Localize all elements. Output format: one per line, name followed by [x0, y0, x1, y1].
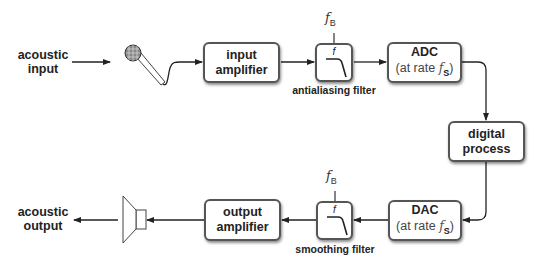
antialiasing-filter-block[interactable]: f [315, 43, 353, 82]
label-line: output [12, 219, 74, 233]
block-label: DAC [411, 203, 438, 218]
cutoff-frequency-label: fB [326, 168, 337, 186]
arrow-digital-to-dac [463, 162, 486, 220]
rate-prefix: (at rate [396, 219, 439, 233]
acoustic-input-label: acoustic input [12, 48, 74, 76]
block-label: process [463, 142, 511, 157]
block-label: digital [468, 127, 505, 142]
microphone-icon [125, 45, 165, 85]
arrow-mic-to-amp [163, 62, 202, 85]
block-label: ADC [411, 45, 438, 60]
speaker-icon [123, 196, 146, 243]
label-line: input [12, 62, 74, 76]
adc-block[interactable]: ADC (at rate fS) [387, 42, 462, 83]
input-amplifier-block[interactable]: input amplifier [203, 42, 280, 83]
output-amplifier-block[interactable]: output amplifier [204, 199, 281, 241]
lowpass-filter-icon [317, 45, 351, 80]
label-line: acoustic [12, 48, 74, 62]
acoustic-output-label: acoustic output [12, 205, 74, 233]
antialiasing-filter-caption: antialiasing filter [284, 84, 384, 96]
block-label: input [226, 48, 257, 63]
sample-rate-label: (at rate fS) [396, 60, 454, 81]
rate-prefix: (at rate [396, 61, 439, 75]
arrow-adc-to-digital [462, 62, 486, 120]
dac-block[interactable]: DAC (at rate fS) [388, 200, 462, 241]
block-label: amplifier [215, 63, 267, 78]
smoothing-filter-caption: smoothing filter [285, 243, 385, 255]
cutoff-sub: B [331, 176, 337, 186]
block-label: output [223, 205, 262, 220]
sample-rate-label: (at rate fS) [396, 218, 454, 239]
rate-suffix: ) [450, 219, 454, 233]
cutoff-sub: B [330, 18, 336, 28]
cutoff-frequency-label: fB [325, 10, 336, 28]
smoothing-filter-block[interactable]: f [316, 201, 353, 240]
block-label: amplifier [216, 220, 268, 235]
lowpass-filter-icon [318, 203, 351, 238]
digital-process-block[interactable]: digital process [448, 121, 525, 162]
rate-suffix: ) [449, 61, 453, 75]
label-line: acoustic [12, 205, 74, 219]
